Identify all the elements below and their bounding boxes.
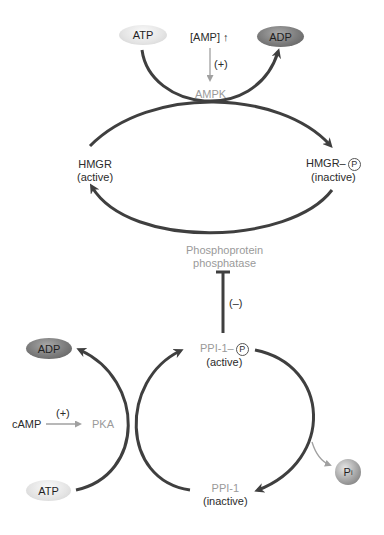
amp-increase-label: [AMP] ↑ <box>190 31 229 44</box>
atp-oval-bottom: ATP <box>26 480 71 501</box>
ppi1-phosphorylation-arc <box>136 351 190 490</box>
ppi1-p-state: (active) <box>200 356 249 369</box>
inhibition-minus-label: (–) <box>229 297 242 310</box>
inorganic-phosphate-sphere: Pi <box>335 459 361 485</box>
hmgr-dephosphorylation-arc <box>92 187 332 233</box>
phosphate-circle-icon: P <box>348 158 361 171</box>
hmgr-name: HMGR <box>77 158 113 171</box>
adp-label-top: ADP <box>269 31 292 43</box>
hmgr-state: (active) <box>77 171 113 184</box>
pi-release-arrow <box>312 442 330 465</box>
adp-oval-bottom: ADP <box>26 338 72 359</box>
ampk-label: AMPK <box>195 88 226 101</box>
phosphate-circle-icon: P <box>236 343 249 356</box>
pi-label: P <box>344 466 351 478</box>
hmgr-p-name: HMGR– <box>306 157 346 169</box>
adp-oval-top: ADP <box>257 26 304 47</box>
ppi1-p-active-label: PPI-1–P (active) <box>200 342 249 369</box>
amp-plus-label: (+) <box>214 58 228 71</box>
camp-label: cAMP <box>12 418 41 431</box>
phosphatase-line2: phosphatase <box>186 257 263 270</box>
phosphatase-label: Phosphoprotein phosphatase <box>186 244 263 270</box>
atp-label-top: ATP <box>133 29 154 41</box>
hmgr-phosphorylation-arc <box>90 102 330 146</box>
phosphatase-line1: Phosphoprotein <box>186 244 263 257</box>
atp-label-bottom: ATP <box>38 485 59 497</box>
hmgr-active-label: HMGR (active) <box>77 158 113 184</box>
pka-label: PKA <box>92 418 114 431</box>
hmgr-p-state: (inactive) <box>306 171 361 184</box>
ppi1-dephosphorylation-arc <box>255 350 314 490</box>
atp-oval-top: ATP <box>119 25 167 45</box>
hmgr-p-inactive-label: HMGR–P (inactive) <box>306 157 361 184</box>
pi-subscript: i <box>351 469 353 476</box>
ppi1-p-name: PPI-1– <box>200 342 234 354</box>
adp-label-bottom: ADP <box>38 343 61 355</box>
ppi1-state: (inactive) <box>203 495 248 508</box>
camp-plus-label: (+) <box>56 407 70 420</box>
ppi1-inactive-label: PPI-1 (inactive) <box>203 482 248 508</box>
ppi1-name: PPI-1 <box>203 482 248 495</box>
